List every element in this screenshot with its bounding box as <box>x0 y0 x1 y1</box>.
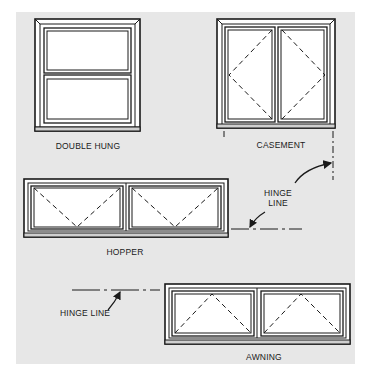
hopper-label: HOPPER <box>106 247 143 257</box>
window-types-diagram: DOUBLE HUNG CASEMENT <box>0 0 367 376</box>
hopper-window <box>24 179 228 237</box>
awning-window <box>165 284 350 344</box>
hopper-hinge-label-line1: HINGE <box>264 188 292 198</box>
double-hung-label: DOUBLE HUNG <box>56 141 121 151</box>
casement-window <box>217 19 335 180</box>
awning-hinge-label: HINGE LINE <box>60 308 110 318</box>
casement-label: CASEMENT <box>257 140 306 150</box>
double-hung-window <box>35 19 140 131</box>
hopper-hinge-arrow-icon <box>250 212 265 227</box>
hopper-hinge-label-line2: LINE <box>268 198 288 208</box>
hinge-arc-arrow-icon <box>295 163 331 183</box>
awning-label: AWNING <box>246 352 282 362</box>
